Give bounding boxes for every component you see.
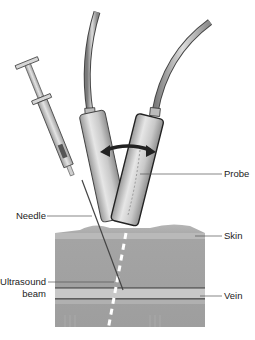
probe-icon: [110, 113, 164, 227]
vein-wall-bottom: [55, 298, 205, 300]
label-skin: Skin: [224, 230, 242, 241]
skin-layer: [55, 233, 205, 239]
label-needle: Needle: [16, 210, 46, 221]
label-ultrasound-beam-2: beam: [22, 288, 46, 299]
probe-cables: [85, 12, 210, 117]
tissue-block: [55, 224, 205, 327]
syringe-icon: [15, 57, 83, 180]
label-ultrasound-beam-1: Ultrasound: [0, 276, 46, 287]
vein: [55, 289, 205, 298]
tissue: [55, 224, 205, 327]
label-probe: Probe: [224, 168, 249, 179]
label-vein: Vein: [224, 290, 243, 301]
vein-wall-top: [55, 287, 205, 289]
